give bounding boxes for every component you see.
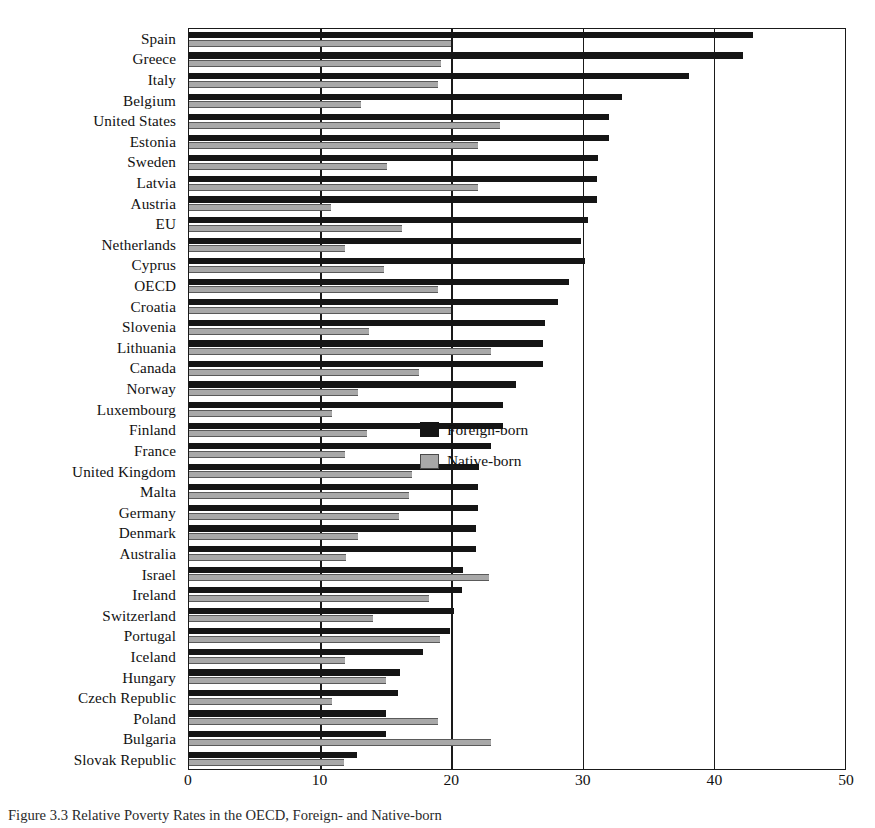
bar-native-born bbox=[189, 348, 491, 355]
category-label: Australia bbox=[0, 543, 182, 564]
bar-foreign-born bbox=[189, 608, 454, 614]
bar-foreign-born bbox=[189, 238, 581, 244]
figure-caption: Figure 3.3 Relative Poverty Rates in the… bbox=[8, 806, 868, 826]
x-tick-label: 20 bbox=[443, 772, 459, 788]
bar-foreign-born bbox=[189, 484, 478, 490]
bar-native-born bbox=[189, 40, 451, 47]
bar-row bbox=[189, 605, 845, 626]
bar-foreign-born bbox=[189, 299, 558, 305]
bar-native-born bbox=[189, 410, 332, 417]
bar-foreign-born bbox=[189, 217, 588, 223]
bar-native-born bbox=[189, 101, 361, 108]
bar-row bbox=[189, 399, 845, 420]
x-tick-label: 10 bbox=[312, 772, 328, 788]
bar-row bbox=[189, 337, 845, 358]
category-label: Netherlands bbox=[0, 234, 182, 255]
bar-native-born bbox=[189, 595, 429, 602]
bar-native-born bbox=[189, 286, 438, 293]
bar-foreign-born bbox=[189, 669, 400, 675]
category-label: Poland bbox=[0, 708, 182, 729]
bar-row bbox=[189, 502, 845, 523]
gray-swatch bbox=[420, 454, 439, 469]
bar-native-born bbox=[189, 225, 402, 232]
bar-foreign-born bbox=[189, 402, 503, 408]
category-label: Germany bbox=[0, 502, 182, 523]
bar-native-born bbox=[189, 184, 478, 191]
category-label: OECD bbox=[0, 275, 182, 296]
category-label: Belgium bbox=[0, 90, 182, 111]
bar-row bbox=[189, 625, 845, 646]
bar-native-born bbox=[189, 471, 412, 478]
bar-row bbox=[189, 749, 845, 770]
chart-legend: Foreign-bornNative-born bbox=[420, 422, 528, 485]
category-label: Israel bbox=[0, 564, 182, 585]
category-label: Spain bbox=[0, 28, 182, 49]
category-label: Latvia bbox=[0, 172, 182, 193]
bar-native-born bbox=[189, 307, 451, 314]
category-label: Cyprus bbox=[0, 255, 182, 276]
category-label: EU bbox=[0, 213, 182, 234]
bar-native-born bbox=[189, 759, 344, 766]
category-label: Bulgaria bbox=[0, 729, 182, 750]
bar-native-born bbox=[189, 245, 345, 252]
bar-foreign-born bbox=[189, 73, 689, 79]
category-label: Sweden bbox=[0, 152, 182, 173]
bar-native-born bbox=[189, 430, 367, 437]
bar-row bbox=[189, 50, 845, 71]
bar-native-born bbox=[189, 739, 491, 746]
bar-row bbox=[189, 29, 845, 50]
bar-foreign-born bbox=[189, 135, 609, 141]
bar-foreign-born bbox=[189, 567, 463, 573]
category-label: Finland bbox=[0, 420, 182, 441]
bar-foreign-born bbox=[189, 546, 476, 552]
bar-native-born bbox=[189, 574, 489, 581]
bar-row bbox=[189, 235, 845, 256]
category-label: Czech Republic bbox=[0, 688, 182, 709]
bar-native-born bbox=[189, 451, 345, 458]
bar-row bbox=[189, 728, 845, 749]
bar-foreign-born bbox=[189, 94, 622, 100]
bar-row bbox=[189, 564, 845, 585]
category-label: Portugal bbox=[0, 626, 182, 647]
category-label: Estonia bbox=[0, 131, 182, 152]
category-label: Lithuania bbox=[0, 337, 182, 358]
category-label: Croatia bbox=[0, 296, 182, 317]
bar-foreign-born bbox=[189, 114, 609, 120]
category-label: Italy bbox=[0, 69, 182, 90]
dark-swatch bbox=[420, 422, 439, 437]
bar-row bbox=[189, 214, 845, 235]
bar-row bbox=[189, 666, 845, 687]
bar-row bbox=[189, 379, 845, 400]
category-label: Iceland bbox=[0, 646, 182, 667]
bar-foreign-born bbox=[189, 279, 569, 285]
bar-native-born bbox=[189, 615, 373, 622]
category-label: Luxembourg bbox=[0, 399, 182, 420]
category-label: United Kingdom bbox=[0, 461, 182, 482]
bar-foreign-born bbox=[189, 361, 543, 367]
category-label: Slovenia bbox=[0, 317, 182, 338]
legend-item: Foreign-born bbox=[420, 422, 528, 437]
bar-native-born bbox=[189, 81, 438, 88]
bar-foreign-born bbox=[189, 32, 753, 38]
bar-foreign-born bbox=[189, 690, 398, 696]
category-axis-labels: SpainGreeceItalyBelgiumUnited StatesEsto… bbox=[0, 28, 182, 770]
bar-native-born bbox=[189, 698, 332, 705]
bar-native-born bbox=[189, 163, 387, 170]
bar-row bbox=[189, 132, 845, 153]
category-label: France bbox=[0, 440, 182, 461]
bar-native-born bbox=[189, 677, 386, 684]
bar-foreign-born bbox=[189, 340, 543, 346]
bar-foreign-born bbox=[189, 176, 597, 182]
legend-item: Native-born bbox=[420, 453, 528, 468]
bar-row bbox=[189, 543, 845, 564]
bar-row bbox=[189, 523, 845, 544]
bar-foreign-born bbox=[189, 196, 597, 202]
legend-label: Foreign-born bbox=[447, 422, 528, 437]
category-label: Norway bbox=[0, 378, 182, 399]
category-label: Austria bbox=[0, 193, 182, 214]
category-label: Switzerland bbox=[0, 605, 182, 626]
category-label: Denmark bbox=[0, 523, 182, 544]
plot-area bbox=[188, 28, 846, 770]
category-label: Slovak Republic bbox=[0, 749, 182, 770]
bar-native-born bbox=[189, 328, 369, 335]
